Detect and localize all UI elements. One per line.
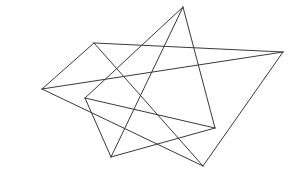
edge-line [94, 43, 203, 166]
geometric-figure [0, 0, 294, 175]
edge-line [94, 43, 283, 52]
quadrilateral-a [42, 43, 283, 166]
edge-line [183, 7, 215, 128]
edge-line [111, 128, 215, 157]
edge-line [203, 52, 283, 166]
edge-line [111, 7, 183, 157]
edge-line [85, 98, 111, 157]
edge-line [85, 7, 183, 98]
edge-line [42, 89, 203, 166]
edge-line [85, 98, 215, 128]
diagram-canvas [0, 0, 294, 175]
quadrilateral-b [85, 7, 215, 157]
